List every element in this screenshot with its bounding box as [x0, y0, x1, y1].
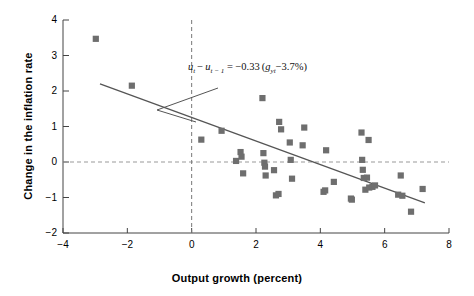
data-point-marker	[288, 157, 294, 163]
data-point-marker	[238, 154, 244, 160]
data-point-marker	[198, 137, 204, 143]
data-point-marker	[399, 193, 405, 199]
data-point-marker	[233, 158, 239, 164]
data-point-marker	[365, 137, 371, 143]
data-point-marker	[240, 170, 246, 176]
data-point-marker	[278, 126, 284, 132]
x-tick-label: 6	[373, 239, 397, 250]
y-tick-label: 0	[35, 156, 57, 167]
data-point-marker	[349, 197, 355, 203]
regression-equation-annotation: ut − ut − 1 = −0.33 (gyt−3.7%)	[188, 61, 307, 75]
data-point-marker	[364, 175, 370, 181]
x-tick-label: −2	[115, 239, 139, 250]
data-point-marker	[287, 139, 293, 145]
data-point-marker	[331, 179, 337, 185]
data-point-marker	[420, 186, 426, 192]
y-tick-label: 3	[35, 50, 57, 61]
x-tick-label: −4	[51, 239, 75, 250]
data-point-marker	[275, 191, 281, 197]
leader-line	[157, 88, 218, 122]
reference-lines	[63, 20, 449, 233]
data-point-marker	[359, 157, 365, 163]
data-point-marker	[323, 147, 329, 153]
data-point-marker	[263, 172, 269, 178]
data-point-marker	[372, 182, 378, 188]
data-point-marker	[398, 172, 404, 178]
data-point-marker	[271, 167, 277, 173]
data-point-marker	[322, 187, 328, 193]
annotation-leader-line	[157, 88, 218, 122]
y-tick-label: 2	[35, 85, 57, 96]
data-point-marker	[260, 150, 266, 156]
y-tick-label: −1	[35, 192, 57, 203]
x-tick-label: 4	[308, 239, 332, 250]
tick-marks	[63, 20, 449, 233]
data-point-marker	[218, 128, 224, 134]
data-point-marker	[408, 209, 414, 215]
data-point-marker	[358, 129, 364, 135]
data-point-marker	[129, 83, 135, 89]
x-tick-label: 0	[180, 239, 204, 250]
data-point-marker	[262, 164, 268, 170]
data-point-marker	[300, 142, 306, 148]
axis-spines	[63, 20, 449, 233]
data-point-marker	[301, 124, 307, 130]
y-tick-label: 4	[35, 14, 57, 25]
okun-law-scatter-figure: Change in the inflation rate Output grow…	[0, 0, 474, 296]
data-point-marker	[259, 95, 265, 101]
x-tick-label: 2	[244, 239, 268, 250]
y-tick-label: −2	[35, 227, 57, 238]
data-point-marker	[93, 36, 99, 42]
x-tick-label: 8	[437, 239, 461, 250]
y-tick-label: 1	[35, 121, 57, 132]
data-point-marker	[276, 119, 282, 125]
data-point-marker	[289, 176, 295, 182]
plot-area	[0, 0, 474, 296]
data-point-marker	[360, 167, 366, 173]
